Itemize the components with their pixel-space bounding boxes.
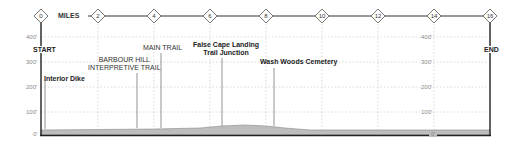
left-axis-tick-0: 0' bbox=[33, 131, 37, 137]
vertical-gridlines bbox=[98, 24, 434, 134]
right-axis-tick-100: 100' bbox=[421, 109, 432, 115]
right-axis-tick-0: 0' bbox=[429, 131, 437, 137]
left-axis-tick-100: 100' bbox=[26, 109, 37, 115]
mile-marker-0: 0 bbox=[34, 9, 48, 23]
left-axis-tick-200: 200' bbox=[26, 84, 37, 90]
wash-woods-cemetery-label: Wash Woods Cemetery bbox=[260, 58, 337, 66]
end-label: END bbox=[484, 46, 499, 53]
mile-marker-10: 10 bbox=[315, 9, 329, 23]
mile-marker-12: 12 bbox=[371, 9, 385, 23]
barbour-hill-label: BARBOUR HILL INTERPRETIVE TRAIL bbox=[88, 56, 161, 72]
elevation-area bbox=[41, 125, 490, 135]
barbour-hill-label-line2: INTERPRETIVE TRAIL bbox=[88, 64, 161, 72]
interior-dike-label: Interior Dike bbox=[44, 75, 85, 83]
left-axis-tick-300: 300' bbox=[26, 59, 37, 65]
false-cape-label-line2: Trail Junction bbox=[193, 49, 259, 57]
miles-label: MILES bbox=[58, 12, 79, 19]
false-cape-landing-label: False Cape Landing Trail Junction bbox=[193, 41, 259, 57]
mile-marker-2: 2 bbox=[91, 9, 105, 23]
right-axis-tick-200: 200' bbox=[421, 84, 432, 90]
false-cape-label-line1: False Cape Landing bbox=[193, 41, 259, 49]
mile-marker-14: 14 bbox=[427, 9, 441, 23]
mile-marker-4: 4 bbox=[147, 9, 161, 23]
mile-marker-16: 16 bbox=[483, 9, 497, 23]
horizontal-gridlines bbox=[41, 37, 490, 112]
mile-marker-6: 6 bbox=[203, 9, 217, 23]
left-axis-tick-400: 400' bbox=[26, 34, 37, 40]
main-trail-label: MAIN TRAIL bbox=[143, 44, 182, 52]
right-axis-tick-300: 300' bbox=[421, 59, 432, 65]
mile-marker-8: 8 bbox=[259, 9, 273, 23]
start-label: START bbox=[33, 46, 56, 53]
barbour-hill-label-line1: BARBOUR HILL bbox=[88, 56, 161, 64]
right-axis-tick-400: 400' bbox=[421, 34, 432, 40]
